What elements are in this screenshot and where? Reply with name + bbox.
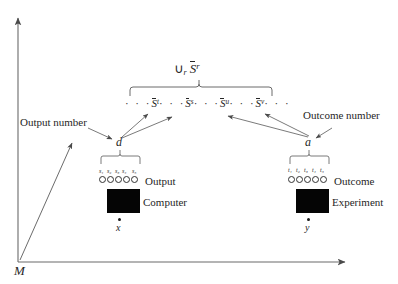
origin-label: M	[14, 264, 25, 277]
right-slot-circle-5[interactable]	[320, 176, 327, 183]
diagram-vector-layer	[0, 0, 398, 284]
set-symbol-t: S	[151, 98, 157, 109]
experiment-box-label: Experiment	[332, 197, 383, 208]
right-slot-label-2: t₂	[296, 167, 300, 173]
right-slot-label-3: t₃	[304, 167, 308, 173]
sequence-trailing-dots: · · ·	[264, 97, 290, 109]
origin-to-cone-arrow	[20, 143, 72, 260]
left-slot-circle-2[interactable]	[107, 176, 114, 183]
right-row-label: Outcome	[334, 176, 374, 187]
left-slot-brace	[101, 150, 140, 164]
outcome-number-callout-label: Outcome number	[303, 110, 380, 121]
left-slot-circle-1[interactable]	[99, 176, 106, 183]
output-number-callout-arrow	[88, 128, 112, 139]
right-input-label: y	[305, 223, 309, 233]
left-slot-label-1: s₁	[99, 168, 103, 174]
sequence-dots-1: · · ·	[159, 97, 185, 109]
right-slot-circle-4[interactable]	[312, 176, 319, 183]
right-slot-brace	[290, 150, 329, 164]
left-slot-circle-5[interactable]	[131, 176, 138, 183]
sequence-leading-dots: · · ·	[125, 97, 151, 109]
left-slot-circle-3[interactable]	[115, 176, 122, 183]
sequence-dots-3: · · ·	[229, 97, 255, 109]
right-slot-label-1: t₁	[288, 167, 292, 173]
d-to-set-s-arrow	[122, 117, 172, 138]
left-row-label: Output	[145, 176, 176, 187]
computer-box	[107, 189, 140, 213]
union-set-symbol: S	[190, 62, 197, 75]
outcome-number-callout-arrow	[316, 128, 332, 138]
right-slot-circle-1[interactable]	[288, 176, 295, 183]
left-slot-label-4: s₄	[122, 168, 126, 174]
set-sequence-row: · · ·St· · ·Ss· · ·Su· · ·Sv· · ·	[125, 98, 291, 109]
right-slot-label-4: t₄	[312, 167, 316, 173]
output-number-callout-label: Output number	[20, 117, 87, 128]
d-to-set-t-arrow	[122, 114, 148, 137]
left-slot-label-2: s₂	[107, 168, 111, 174]
experiment-box	[296, 189, 329, 213]
left-slot-circle-4[interactable]	[123, 176, 130, 183]
left-input-dot	[118, 218, 121, 221]
right-slot-label-5: t₅	[320, 167, 324, 173]
computer-box-label: Computer	[143, 197, 187, 208]
sequence-dots-2: · · ·	[194, 97, 220, 109]
set-symbol-v: S	[256, 98, 262, 109]
left-input-label: x	[116, 223, 120, 233]
union-operator-subscript: r	[184, 68, 187, 77]
diagram-canvas: M ∪rSr · · ·St· · ·Ss· · ·Su· · ·Sv· · ·…	[0, 0, 398, 284]
union-expression: ∪rSr	[174, 62, 200, 77]
axis-lines	[18, 18, 345, 262]
union-brace	[130, 80, 272, 96]
left-slot-label-3: s₃	[115, 168, 119, 174]
right-node-label: a	[305, 136, 311, 148]
union-set-superscript: r	[196, 61, 199, 71]
left-slot-label-5: s₅	[132, 168, 136, 174]
set-symbol-s: S	[185, 98, 191, 109]
union-operator-icon: ∪	[174, 62, 184, 75]
right-slot-circle-2[interactable]	[296, 176, 303, 183]
right-input-dot	[307, 218, 310, 221]
left-node-label: d	[116, 136, 122, 148]
right-slot-circle-3[interactable]	[304, 176, 311, 183]
set-symbol-u: S	[220, 98, 226, 109]
a-to-set-u-arrow	[228, 116, 308, 137]
